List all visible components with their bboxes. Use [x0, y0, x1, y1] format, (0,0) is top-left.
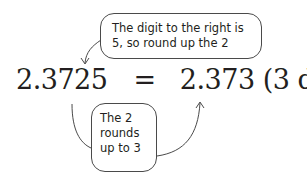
callout-bottom-line-3: up to 3 [100, 141, 156, 156]
callout-bottom-line-1: The 2 [100, 111, 156, 126]
precision-label: (3 d.p.) [263, 64, 307, 95]
callout-bottom: The 2 rounds up to 3 [91, 103, 157, 172]
connector-from-2 [72, 104, 91, 148]
original-number: 2.3725 [16, 64, 107, 95]
callout-top-line-1: The digit to the right is [112, 21, 261, 36]
equation: 2.3725 = 2.373 (3 d.p.) [16, 64, 307, 95]
callout-top-line-2: 5, so round up the 2 [112, 36, 261, 51]
callout-bottom-line-2: rounds [100, 126, 156, 141]
callout-top: The digit to the right is 5, so round up… [100, 13, 262, 59]
equals-sign: = [134, 64, 156, 95]
arrow-to-digit-3 [157, 103, 200, 156]
rounded-number: 2.373 [180, 64, 255, 95]
